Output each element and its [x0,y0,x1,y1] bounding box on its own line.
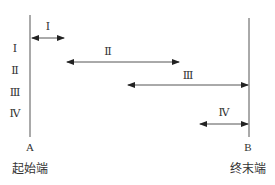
end-point-caption: 终末端 [230,161,266,176]
row-label-1: Ⅰ [13,42,17,54]
diagram-canvas: Ⅰ Ⅱ Ⅲ Ⅳ Ⅰ Ⅱ Ⅲ Ⅳ A 起始端 B 终末端 [0,0,275,185]
segment-4-label: Ⅳ [219,106,231,118]
end-point-letter: B [244,141,251,153]
row-label-3: Ⅲ [10,86,21,98]
segment-2-label: Ⅱ [104,45,111,57]
row-label-2: Ⅱ [11,64,18,76]
start-point-caption: 起始端 [12,162,48,176]
row-label-4: Ⅳ [10,107,22,119]
segment-1-label: Ⅰ [46,20,50,32]
start-point-letter: A [26,141,34,153]
segment-3-label: Ⅲ [183,69,194,81]
